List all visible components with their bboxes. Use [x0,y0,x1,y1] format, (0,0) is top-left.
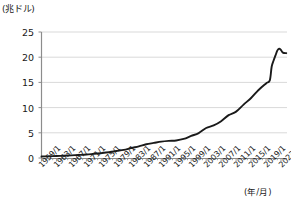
data-series-line [42,49,287,157]
y-tick-label: 0 [12,153,34,164]
y-tick-label: 20 [12,52,34,63]
x-axis-unit-label: (年/月) [244,185,272,197]
y-tick-label: 10 [12,102,34,113]
y-tick-label: 15 [12,77,34,88]
y-tick-label: 25 [12,27,34,38]
gridlines-group [42,32,288,133]
y-tick-label: 5 [12,127,34,138]
line-chart-svg [0,0,291,200]
plot-area: 0510152025 1959/11963/11967/11971/11975/… [0,0,291,200]
axis-lines-group [42,32,288,159]
chart-container: (兆ドル) 0510152025 1959/11963/11967/11971/… [0,0,291,200]
